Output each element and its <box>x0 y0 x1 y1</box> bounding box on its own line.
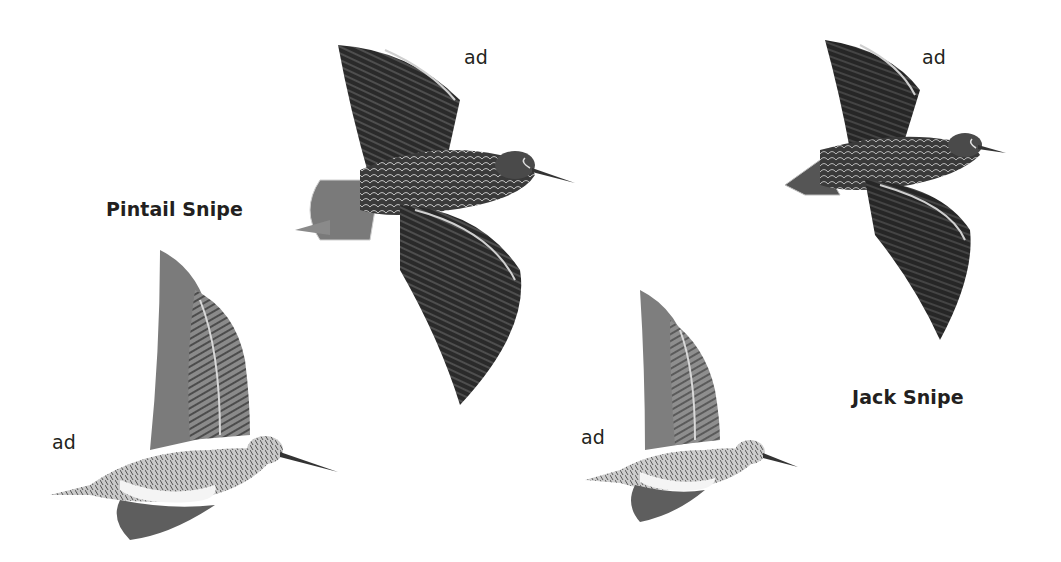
age-label-jack-underside: ad <box>581 428 605 447</box>
age-label-pintail-upperside: ad <box>464 48 488 67</box>
pintail-snipe-underside-illustration <box>50 250 345 540</box>
jack-snipe-underside-illustration <box>585 290 800 525</box>
age-label-pintail-underside: ad <box>52 433 76 452</box>
jack-snipe-upperside-illustration <box>780 35 1010 345</box>
age-label-jack-upperside: ad <box>922 48 946 67</box>
species-label-pintail-snipe: Pintail Snipe <box>106 200 243 219</box>
species-label-jack-snipe: Jack Snipe <box>852 388 964 407</box>
